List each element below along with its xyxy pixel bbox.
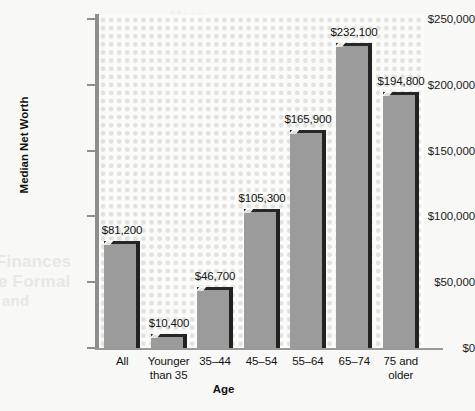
bar bbox=[290, 130, 326, 348]
y-tick-mark bbox=[87, 215, 96, 217]
y-tick-mark bbox=[87, 281, 96, 283]
bar-value-label: $46,700 bbox=[175, 270, 255, 282]
bar-value-label: $81,200 bbox=[82, 224, 162, 236]
x-tick-label-line: than 35 bbox=[129, 369, 209, 383]
bar bbox=[244, 209, 280, 348]
x-axis-title-text: Age bbox=[213, 383, 235, 395]
x-tick-label: 75 andolder bbox=[361, 355, 441, 382]
chart-page: Finances e Formal and Mean $0$50,000$100… bbox=[0, 0, 475, 411]
y-tick-mark bbox=[87, 347, 96, 349]
bar bbox=[383, 92, 419, 348]
y-axis-title: Median Net Worth bbox=[18, 75, 30, 215]
bar bbox=[197, 287, 233, 348]
y-tick-label: $250,000 bbox=[391, 13, 475, 25]
y-tick-mark bbox=[87, 84, 96, 86]
y-tick-mark bbox=[87, 150, 96, 152]
x-axis-title: Age bbox=[0, 383, 475, 395]
y-axis-line bbox=[95, 14, 99, 349]
x-tick-label-line: 75 and bbox=[361, 355, 441, 369]
bar bbox=[336, 43, 372, 348]
y-tick-mark bbox=[87, 18, 96, 20]
bar bbox=[151, 334, 187, 348]
bar-chart: $0$50,000$100,000$150,000$200,000$250,00… bbox=[0, 0, 475, 411]
bar-value-label: $194,800 bbox=[361, 75, 441, 87]
bar-value-label: $232,100 bbox=[314, 26, 394, 38]
x-tick-label-line: older bbox=[361, 369, 441, 383]
bar bbox=[104, 241, 140, 348]
